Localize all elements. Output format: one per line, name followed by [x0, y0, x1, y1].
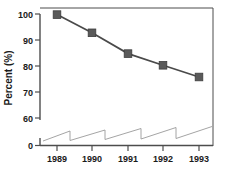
x-tick-label-1993: 1993: [189, 154, 209, 164]
x-tick-label-1990: 1990: [82, 154, 102, 164]
y-tick-label-60: 60: [23, 114, 33, 124]
y-tick-label-80: 80: [23, 62, 33, 72]
data-point-1993: [195, 73, 203, 81]
y-tick-label-100: 100: [18, 10, 33, 20]
chart-container: 100 90 80 70 60 0 1989 1990 1991 1992 19…: [0, 0, 226, 176]
y-axis-ticks: [35, 14, 40, 146]
y-tick-label-0: 0: [28, 141, 33, 151]
y-tick-label-70: 70: [23, 88, 33, 98]
y-axis-title: Percent (%): [3, 50, 14, 105]
data-point-1990: [88, 29, 96, 37]
data-point-1989: [53, 11, 61, 19]
x-tick-label-1992: 1992: [153, 154, 173, 164]
percent-series-line: [57, 15, 199, 77]
x-tick-label-1989: 1989: [47, 154, 67, 164]
sawtooth-series-line: [43, 127, 212, 142]
x-axis-ticks: [57, 146, 199, 152]
x-tick-label-1991: 1991: [118, 154, 138, 164]
data-point-1992: [159, 62, 167, 70]
y-tick-label-90: 90: [23, 36, 33, 46]
line-chart: 100 90 80 70 60 0 1989 1990 1991 1992 19…: [0, 0, 226, 176]
data-point-1991: [124, 50, 132, 58]
